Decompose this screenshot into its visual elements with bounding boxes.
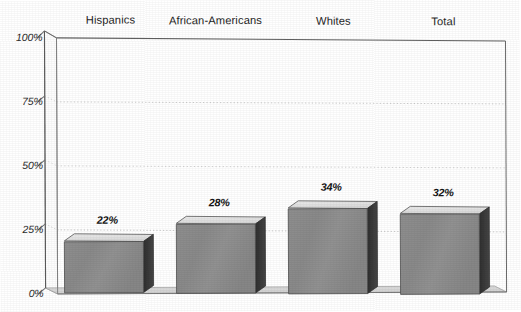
y-axis-label-75: 75% [3,95,43,107]
bar-whites [288,200,377,293]
category-label-hispanics: Hispanics [67,13,153,25]
category-label-whites: Whites [293,15,373,27]
bar-hispanics-side [143,234,153,292]
y-axis-labels: 100% 75% 50% 25% 0% [0,1,44,312]
bar-hispanics-front [64,242,143,293]
plot-left-wall [44,31,57,294]
bar-whites-top [288,200,377,208]
bar-whites-side [367,201,377,293]
value-label-whites: 34% [290,181,372,193]
category-label-total: Total [408,15,478,27]
bar-chart: 100% 75% 50% 25% 0% Hispanics African-Am… [0,0,521,312]
bar-african-americans [176,216,265,293]
bar-total-top [400,206,489,214]
chart-plot-area [0,0,521,312]
bar-african-americans-side [255,217,265,293]
value-label-african-americans: 28% [178,196,260,208]
y-axis-label-0: 0% [4,287,44,299]
value-label-hispanics: 22% [66,213,148,225]
bar-total-front [400,214,479,294]
y-axis-label-25: 25% [3,223,43,235]
bar-total [400,206,489,294]
y-axis-label-50: 50% [3,159,43,171]
bar-whites-front [288,209,367,294]
bar-hispanics-top [64,233,153,241]
bar-african-americans-top [176,216,265,224]
bar-hispanics [64,233,153,292]
value-label-total: 32% [402,186,484,198]
category-label-african-americans: African-Americans [149,14,281,27]
y-axis-label-100: 100% [2,31,42,43]
bar-total-side [479,207,489,294]
bar-african-americans-front [176,224,255,293]
